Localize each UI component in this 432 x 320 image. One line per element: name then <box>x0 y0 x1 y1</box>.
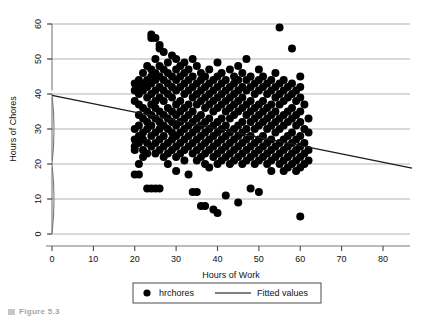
data-point <box>193 188 201 196</box>
data-point <box>189 55 197 63</box>
data-point <box>214 209 222 217</box>
data-point <box>168 94 176 102</box>
data-point <box>135 122 143 130</box>
data-point <box>296 118 304 126</box>
data-point <box>201 73 209 81</box>
x-tick-label: 80 <box>378 254 388 264</box>
data-point <box>259 97 267 105</box>
data-point <box>234 62 242 70</box>
data-point <box>205 66 213 74</box>
x-tick-label: 40 <box>212 254 222 264</box>
data-point <box>189 108 197 116</box>
data-point <box>288 80 296 88</box>
data-point <box>238 118 246 126</box>
data-point <box>160 48 168 56</box>
y-tick-labels: 0102030405060 <box>33 19 43 237</box>
x-tick-label: 60 <box>295 254 305 264</box>
data-point <box>180 59 188 67</box>
data-point <box>147 122 155 130</box>
data-point <box>234 199 242 207</box>
x-tick-labels: 01020304050607080 <box>49 254 388 264</box>
y-tick-label: 0 <box>33 231 43 236</box>
data-point <box>160 132 168 140</box>
caption-text: Figure 5.3 <box>19 307 60 316</box>
data-point <box>234 76 242 84</box>
x-tick-label: 20 <box>130 254 140 264</box>
y-tick-label: 40 <box>33 89 43 99</box>
data-point <box>180 157 188 165</box>
y-tick-label: 60 <box>33 19 43 29</box>
data-point <box>135 171 143 179</box>
scatter-plot: 0102030405060 01020304050607080 Hours of… <box>0 0 432 320</box>
data-point <box>255 188 263 196</box>
data-point <box>222 122 230 130</box>
data-point <box>139 69 147 77</box>
data-point <box>185 101 193 109</box>
data-point <box>288 129 296 137</box>
data-point <box>160 97 168 105</box>
data-point <box>143 150 151 158</box>
data-point <box>151 34 159 42</box>
x-tick-label: 10 <box>88 254 98 264</box>
data-point <box>176 97 184 105</box>
data-point <box>267 167 275 175</box>
data-point <box>276 24 284 32</box>
data-point <box>296 213 304 221</box>
data-point <box>242 55 250 63</box>
data-point <box>259 73 267 81</box>
data-point <box>172 55 180 63</box>
data-point <box>214 59 222 67</box>
x-tick-label: 50 <box>254 254 264 264</box>
data-point <box>164 59 172 67</box>
data-point <box>189 73 197 81</box>
data-point <box>247 185 255 193</box>
data-point <box>305 115 313 123</box>
data-point <box>222 192 230 200</box>
data-point <box>172 167 180 175</box>
data-point <box>288 45 296 53</box>
data-point <box>193 62 201 70</box>
data-point <box>267 101 275 109</box>
data-point <box>296 108 304 116</box>
data-point <box>205 164 213 172</box>
caption-marker-icon <box>8 309 15 315</box>
data-point <box>185 66 193 74</box>
data-point <box>218 69 226 77</box>
x-tick-label: 70 <box>337 254 347 264</box>
data-point <box>238 69 246 77</box>
data-point <box>247 97 255 105</box>
x-tick-label: 0 <box>49 254 54 264</box>
data-point <box>296 132 304 140</box>
y-tick-label: 50 <box>33 54 43 64</box>
data-point <box>156 185 164 193</box>
data-point <box>280 76 288 84</box>
x-axis-title: Hours of Work <box>202 270 260 280</box>
data-point <box>296 94 304 102</box>
legend-marker-dot-icon <box>143 289 150 296</box>
data-point <box>305 157 313 165</box>
data-point <box>222 76 230 84</box>
x-tick-label: 30 <box>171 254 181 264</box>
data-point <box>300 101 308 109</box>
legend: hrchoresFitted values <box>133 283 321 303</box>
data-point <box>226 66 234 74</box>
data-point <box>201 202 209 210</box>
data-point <box>151 55 159 63</box>
data-point <box>131 146 139 154</box>
x-axis <box>46 246 410 251</box>
legend-label-hrchores: hrchores <box>159 288 195 298</box>
data-point <box>185 171 193 179</box>
data-point <box>164 160 172 168</box>
data-point <box>271 108 279 116</box>
y-tick-label: 20 <box>33 159 43 169</box>
data-point <box>218 115 226 123</box>
data-point <box>267 76 275 84</box>
data-point <box>135 160 143 168</box>
figure-caption: Figure 5.3 <box>8 307 60 316</box>
data-point <box>197 111 205 119</box>
y-axis-title: Hours of Chores <box>8 96 18 162</box>
data-point <box>296 83 304 91</box>
y-tick-label: 30 <box>33 124 43 134</box>
data-point <box>205 115 213 123</box>
data-point <box>271 69 279 77</box>
